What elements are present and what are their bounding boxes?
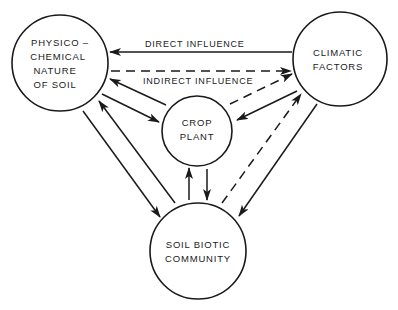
node-label-line: PHYSICO – xyxy=(31,37,89,48)
edge-biotic-to-soil xyxy=(99,101,175,203)
edge-biotic-to-climate-dashed xyxy=(222,94,301,203)
edge-climate-to-crop xyxy=(237,91,297,120)
direct-influence-label: DIRECT INFLUENCE xyxy=(145,39,245,49)
node-label-line: COMMUNITY xyxy=(165,253,231,264)
indirect-influence-label: INDIRECT INFLUENCE xyxy=(143,76,253,86)
node-climatic-factors: CLIMATIC FACTORS xyxy=(293,12,387,106)
node-label-line: CROP xyxy=(182,117,213,128)
node-label-line: PLANT xyxy=(180,131,215,142)
edge-climate-to-biotic xyxy=(239,104,317,216)
node-crop-plant: CROP PLANT xyxy=(162,96,232,166)
node-label-line: CLIMATIC xyxy=(313,47,363,58)
edge-soil-to-biotic xyxy=(83,111,160,217)
node-soil-biotic-community: SOIL BIOTIC COMMUNITY xyxy=(150,203,246,299)
node-physico-chemical-soil: PHYSICO – CHEMICAL NATURE OF SOIL xyxy=(12,15,108,111)
ecosystem-interaction-diagram: DIRECT INFLUENCE INDIRECT INFLUENCE xyxy=(0,0,398,310)
node-label-line: SOIL BIOTIC xyxy=(166,239,230,250)
node-label-line: NATURE xyxy=(33,65,76,76)
node-label-line: FACTORS xyxy=(313,61,363,72)
node-label-line: OF SOIL xyxy=(33,79,76,90)
node-label-line: CHEMICAL xyxy=(30,51,86,62)
